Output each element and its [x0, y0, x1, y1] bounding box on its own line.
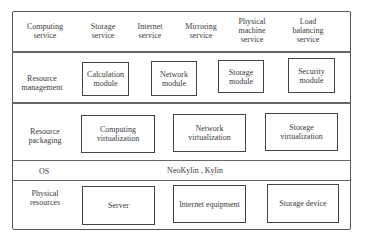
management-module-label: Security module — [298, 67, 325, 85]
virtualization-module-label: Network virtualization — [188, 124, 231, 142]
service-label: Storage service — [91, 22, 115, 40]
physical-module: Storage device — [267, 184, 339, 223]
virtualization-module-label: Computing virtualization — [97, 125, 140, 143]
layer-label: Resource management — [22, 74, 63, 92]
management-module-label: Network module — [160, 70, 188, 88]
service-label: Internet service — [138, 22, 163, 40]
management-module: Security module — [288, 58, 335, 93]
divider-packaging — [12, 160, 351, 161]
virtualization-module: Computing virtualization — [81, 115, 155, 153]
divider-management — [12, 102, 351, 104]
physical-module-label: Server — [108, 201, 129, 210]
physical-module: Internet equipment — [173, 185, 246, 223]
physical-module: Server — [82, 186, 155, 225]
virtualization-module-label: Storage virtualization — [280, 123, 323, 141]
physical-module-label: Storage device — [279, 199, 326, 208]
layer-label: OS — [39, 167, 49, 176]
divider-os — [12, 180, 351, 181]
management-module: Calculation module — [82, 62, 129, 96]
service-label: Load balancing service — [292, 17, 323, 44]
virtualization-module: Network virtualization — [173, 114, 246, 152]
service-label: Computing service — [27, 22, 63, 40]
management-module-label: Storage module — [229, 68, 253, 86]
management-module: Network module — [151, 61, 197, 96]
management-module-label: Calculation module — [87, 70, 124, 88]
os-value: NeoKylin , Kylin — [167, 166, 223, 175]
virtualization-module: Storage virtualization — [265, 113, 338, 151]
management-module: Storage module — [218, 60, 264, 93]
layer-label: Physical resources — [30, 189, 60, 207]
divider-services — [12, 51, 351, 53]
physical-module-label: Internet equipment — [179, 200, 240, 209]
service-label: Mirroring service — [185, 22, 217, 40]
layer-label: Resource packaging — [29, 127, 62, 145]
service-label: Physical machine service — [238, 17, 265, 44]
